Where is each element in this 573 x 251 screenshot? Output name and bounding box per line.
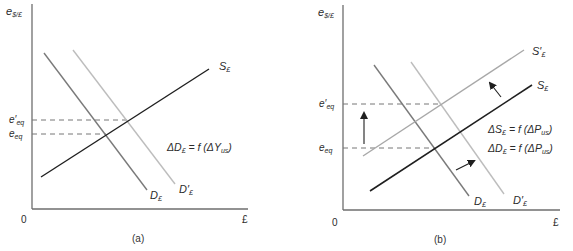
demand-label: D£ — [474, 195, 487, 208]
supply-shifted-curve — [363, 50, 524, 156]
demand-curve — [374, 65, 469, 196]
panel-a: e$/£ 0 £ e′eq eeq S£ D£ D′£ ΔD£ = f (ΔYu… — [6, 4, 248, 244]
supply-label: S£ — [537, 79, 549, 92]
exchange-rate-diagram: e$/£ 0 £ e′eq eeq S£ D£ D′£ ΔD£ = f (ΔYu… — [0, 0, 573, 251]
demand-shift-arrow-icon — [456, 161, 474, 170]
supply-shifted-label: S′£ — [532, 45, 546, 58]
e-eq-label: eeq — [319, 142, 332, 155]
demand-label: D£ — [150, 189, 163, 202]
e-eq-label: eeq — [9, 128, 22, 141]
panel-b-caption: (b) — [434, 234, 446, 245]
demand-curve — [44, 53, 147, 190]
panel-a-caption: (a) — [132, 233, 144, 244]
x-axis-label: £ — [242, 214, 248, 225]
panel-b: e$/£ 0 £ e′eq eeq S′£ S£ D£ D′£ ΔS£ = f … — [318, 5, 560, 245]
supply-curve — [370, 85, 532, 191]
origin-label: 0 — [21, 214, 27, 225]
supply-shift-arrow-icon — [490, 83, 501, 97]
demand-shifted-label: D′£ — [513, 194, 528, 207]
y-axis-label: e$/£ — [6, 5, 23, 18]
x-axis-label: £ — [553, 217, 559, 228]
demand-shifted-label: D′£ — [179, 183, 194, 196]
supply-label: S£ — [219, 60, 231, 73]
equation-demand-income: ΔD£ = f (ΔYus) — [166, 141, 232, 154]
e-eq-prime-label: e′eq — [9, 114, 24, 127]
equation-supply-price: ΔS£ = f (ΔPus) — [487, 123, 552, 136]
demand-shifted-curve — [73, 50, 175, 184]
origin-label: 0 — [332, 217, 338, 228]
e-eq-prime-label: e′eq — [319, 98, 334, 111]
equation-demand-price: ΔD£ = f (ΔPus) — [487, 142, 553, 155]
y-axis-label: e$/£ — [318, 6, 335, 19]
